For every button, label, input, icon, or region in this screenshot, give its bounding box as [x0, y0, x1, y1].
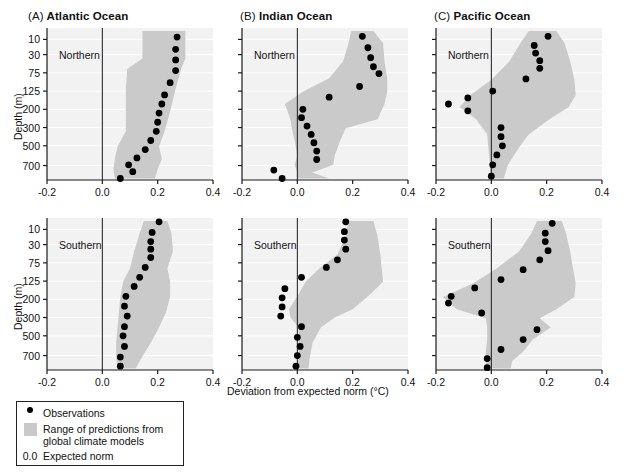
x-tick-label: 0.2 [150, 186, 165, 197]
observation-point [488, 173, 495, 180]
observation-point [342, 246, 349, 253]
observation-point [281, 285, 288, 292]
plot-B: -0.20.00.20.4Northern [195, 22, 420, 197]
observation-point [342, 218, 349, 225]
x-tick-label: 0.2 [150, 376, 165, 387]
x-tick-label: 0.0 [484, 186, 499, 197]
observation-point [147, 254, 154, 261]
observation-point [167, 79, 174, 86]
observation-point [156, 110, 163, 117]
observation-point [370, 63, 377, 70]
observation-point [356, 83, 363, 90]
legend-item-expected-norm: 0.0 Expected norm [17, 450, 114, 462]
legend-label-model-range: Range of predictions from global climate… [43, 423, 163, 447]
observation-point [172, 46, 179, 53]
observation-point [364, 44, 371, 51]
observation-point [142, 264, 149, 271]
observation-point [489, 88, 496, 95]
hemisphere-label: Southern [448, 239, 491, 251]
panel-title-b: (B) Indian Ocean [240, 10, 332, 22]
x-tick-label: 0.4 [595, 186, 610, 197]
panel-tag-a: (A) [28, 10, 44, 22]
observation-point [297, 343, 304, 350]
observation-point [121, 303, 128, 310]
observation-point [464, 95, 471, 102]
observation-point [531, 42, 538, 49]
observation-point [172, 67, 179, 74]
hemisphere-label: Northern [254, 49, 295, 61]
observation-point [341, 237, 348, 244]
observation-dot-icon [17, 407, 43, 413]
observation-point [153, 128, 160, 135]
observation-point [367, 54, 374, 61]
hemisphere-label: Northern [59, 49, 100, 61]
observation-point [277, 313, 284, 320]
observation-point [125, 161, 132, 168]
observation-point [498, 276, 505, 283]
legend-item-observations: Observations [17, 407, 105, 419]
x-tick-label: -0.2 [233, 186, 251, 197]
observation-point [523, 76, 530, 83]
observation-point [172, 57, 179, 64]
observation-point [120, 332, 127, 339]
x-tick-label: 0.0 [95, 186, 110, 197]
y-tick-label: 500 [22, 140, 40, 152]
observation-point [174, 34, 181, 41]
y-tick-label: 75 [28, 257, 40, 269]
observation-point [498, 133, 505, 140]
observation-point [134, 155, 141, 162]
observation-point [341, 228, 348, 235]
observation-point [270, 167, 277, 174]
observation-point [498, 346, 505, 353]
hemisphere-label: Southern [254, 239, 297, 251]
observation-point [484, 355, 491, 362]
x-tick-label: -0.2 [38, 376, 56, 387]
observation-point [520, 336, 527, 343]
observation-point [299, 106, 306, 113]
observation-point [376, 70, 383, 77]
observation-point [122, 293, 129, 300]
observation-point [131, 283, 138, 290]
x-tick-label: 0.2 [345, 186, 360, 197]
y-tick-label: 300 [22, 122, 40, 134]
y-tick-label: 700 [22, 160, 40, 172]
observation-point [499, 142, 506, 149]
observation-point [489, 161, 496, 168]
y-tick-label: 10 [28, 223, 40, 235]
plot-A2: 103075125200300500700-0.20.00.20.4Southe… [0, 212, 225, 387]
panel-indian-northern: -0.20.00.20.4Northern [195, 22, 420, 197]
y-tick-label: 10 [28, 33, 40, 45]
panel-name-a: Atlantic Ocean [47, 10, 129, 22]
panel-pacific-southern: -0.20.00.20.4Southern [389, 212, 614, 387]
x-axis-label: Deviation from expected norm (°C) [227, 385, 389, 397]
panel-pacific-northern: -0.20.00.20.4Northern [389, 22, 614, 197]
observation-point [445, 300, 452, 307]
observation-point [121, 323, 128, 330]
hemisphere-label: Southern [59, 239, 102, 251]
hemisphere-label: Northern [448, 49, 489, 61]
observation-point [445, 101, 452, 108]
observation-point [279, 294, 286, 301]
observation-point [520, 266, 527, 273]
observation-point [298, 114, 305, 121]
observation-point [294, 352, 301, 359]
panel-title-c: (C) Pacific Ocean [434, 10, 530, 22]
panel-tag-b: (B) [240, 10, 256, 22]
observation-point [323, 264, 330, 271]
observation-point [448, 293, 455, 300]
legend-label-expected-norm: Expected norm [43, 450, 114, 462]
observation-point [545, 33, 552, 40]
panel-atlantic-northern: 103075125200300500700-0.20.00.20.4Northe… [0, 22, 225, 197]
x-tick-label: -0.2 [427, 376, 445, 387]
observation-point [542, 238, 549, 245]
observation-point [536, 256, 543, 263]
observation-point [147, 238, 154, 245]
observation-point [147, 246, 154, 253]
observation-point [308, 131, 315, 138]
observation-point [545, 247, 552, 254]
expected-norm-value: 0.0 [17, 450, 43, 462]
plot-C: -0.20.00.20.4Northern [389, 22, 614, 197]
observation-point [313, 148, 320, 155]
x-tick-label: 0.0 [484, 376, 499, 387]
observation-point [136, 274, 143, 281]
